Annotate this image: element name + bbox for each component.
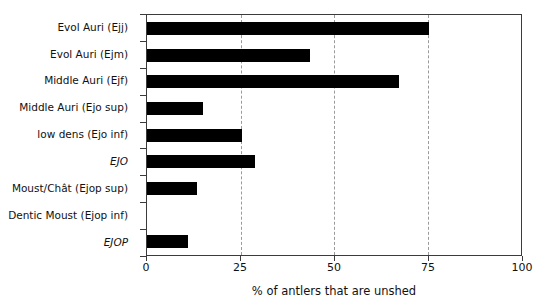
- category-label: EJO: [0, 148, 134, 175]
- category-label: Evol Auri (Ejm): [0, 41, 134, 68]
- category-label: low dens (Ejo inf): [0, 122, 134, 149]
- category-label: Middle Auri (Ejf): [0, 68, 134, 95]
- x-axis-tick-label: 50: [327, 261, 341, 274]
- bar: [147, 129, 242, 142]
- bar-row: [147, 122, 521, 149]
- bar: [147, 22, 429, 35]
- bar-row: [147, 68, 521, 95]
- bar: [147, 75, 399, 88]
- x-axis-tick-label: 100: [512, 261, 533, 274]
- bar-row: [147, 228, 521, 255]
- category-label: Dentic Moust (Ejop inf): [0, 202, 134, 229]
- bar: [147, 182, 197, 195]
- bar: [147, 102, 203, 115]
- bar: [147, 235, 188, 248]
- category-label: Moust/Chât (Ejop sup): [0, 175, 134, 202]
- bar-row: [147, 148, 521, 175]
- x-axis-tick-label: 75: [421, 261, 435, 274]
- y-axis-category-labels: Evol Auri (Ejj) Evol Auri (Ejm) Middle A…: [0, 14, 134, 256]
- plot-area: [146, 14, 522, 256]
- bar: [147, 155, 255, 168]
- bar-row: [147, 15, 521, 42]
- bar-series: [147, 15, 521, 255]
- category-label: Evol Auri (Ejj): [0, 14, 134, 41]
- category-label: EJOP: [0, 229, 134, 256]
- bar: [147, 49, 310, 62]
- x-axis-tick-labels: 0255075100: [146, 261, 522, 277]
- bar-row: [147, 95, 521, 122]
- bar-row: [147, 175, 521, 202]
- bar-row: [147, 202, 521, 229]
- bar-row: [147, 42, 521, 69]
- category-label: Middle Auri (Ejo sup): [0, 95, 134, 122]
- bar-chart-figure: Evol Auri (Ejj) Evol Auri (Ejm) Middle A…: [0, 0, 559, 306]
- x-axis-tick-label: 0: [143, 261, 150, 274]
- x-axis-title: % of antlers that are unshed: [146, 284, 522, 298]
- x-axis-tick-label: 25: [233, 261, 247, 274]
